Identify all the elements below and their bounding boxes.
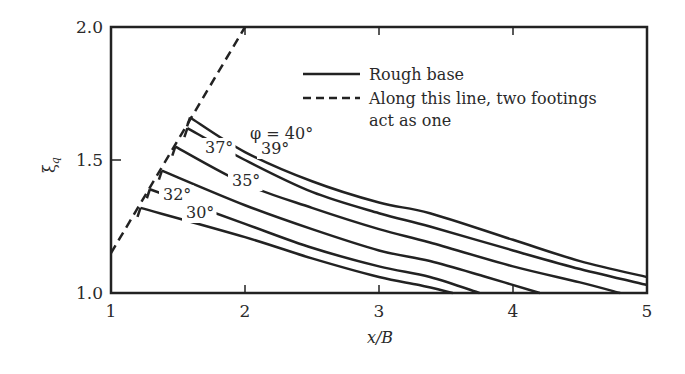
- curve-label: 35°: [228, 171, 263, 191]
- chart: 123451.01.52.0 φ = 40°39°37°35°32°30° Ro…: [0, 0, 685, 374]
- axes: 123451.01.52.0: [76, 17, 652, 321]
- svg-text:30°: 30°: [186, 203, 214, 222]
- svg-text:35°: 35°: [232, 171, 260, 190]
- curve-label: 37°: [201, 138, 236, 158]
- x-tick-label: 4: [508, 301, 519, 321]
- y-axis-label-main: ξ: [40, 164, 59, 173]
- svg-text:39°: 39°: [261, 139, 289, 158]
- curve-label: 32°: [159, 185, 194, 205]
- y-tick-label: 2.0: [76, 17, 103, 37]
- legend-dashed-label-2: act as one: [369, 111, 451, 130]
- curve: [162, 171, 540, 293]
- x-tick-label: 1: [106, 301, 117, 321]
- x-tick-label: 2: [240, 301, 251, 321]
- svg-text:37°: 37°: [205, 138, 233, 157]
- curve-label: 30°: [182, 203, 217, 223]
- y-axis-label-sub: q: [49, 157, 62, 164]
- x-tick-label: 3: [374, 301, 385, 321]
- svg-text:ξq: ξq: [40, 157, 62, 173]
- legend-dashed-label-1: Along this line, two footings: [368, 89, 597, 108]
- y-tick-label: 1.0: [76, 283, 103, 303]
- x-axis-label: x/B: [367, 328, 393, 347]
- legend: Rough base Along this line, two footings…: [303, 65, 597, 130]
- curve-label: 39°: [257, 139, 292, 159]
- svg-text:32°: 32°: [163, 185, 191, 204]
- curve-start-hook: [147, 189, 150, 198]
- y-axis-label: ξq: [40, 157, 62, 173]
- x-tick-label: 5: [642, 301, 653, 321]
- legend-solid-label: Rough base: [369, 65, 464, 84]
- y-tick-label: 1.5: [76, 150, 103, 170]
